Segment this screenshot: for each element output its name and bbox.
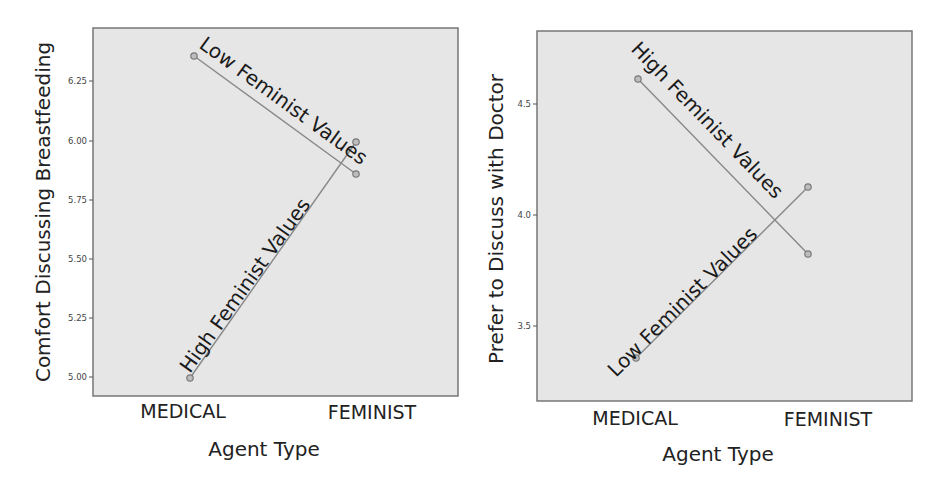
data-marker	[805, 251, 811, 257]
x-category-label: FEMINIST	[328, 401, 417, 423]
chart-svg-right: 3.5 4.0 4.5 High Feminist Values Low Fem…	[470, 0, 939, 485]
y-tick-label: 4.5	[517, 99, 531, 109]
y-tick-label: 6.00	[68, 136, 87, 146]
data-marker	[805, 184, 811, 190]
data-marker	[635, 76, 641, 82]
x-category-label: FEMINIST	[784, 408, 873, 430]
y-ticks: 3.5 4.0 4.5	[517, 99, 537, 331]
x-category-label: MEDICAL	[140, 400, 226, 422]
plot-area	[537, 31, 912, 401]
chart-svg-left: 5.00 5.25 5.50 5.75 6.00 6.25 Low Femini…	[0, 0, 470, 485]
x-axis-title: Agent Type	[662, 442, 774, 466]
y-tick-label: 5.00	[68, 372, 87, 382]
y-tick-label: 5.75	[68, 195, 87, 205]
data-marker	[191, 53, 197, 59]
y-axis-title: Comfort Discussing Breastfeeding	[31, 42, 55, 382]
x-axis-title: Agent Type	[208, 437, 320, 461]
y-tick-label: 4.0	[517, 210, 531, 220]
chart-prefer-doctor: 3.5 4.0 4.5 High Feminist Values Low Fem…	[470, 0, 939, 485]
y-tick-label: 5.25	[68, 313, 87, 323]
data-marker	[353, 171, 359, 177]
y-tick-label: 3.5	[517, 321, 531, 331]
y-tick-label: 5.50	[68, 254, 87, 264]
y-ticks: 5.00 5.25 5.50 5.75 6.00 6.25	[68, 76, 93, 382]
chart-comfort-breastfeeding: 5.00 5.25 5.50 5.75 6.00 6.25 Low Femini…	[0, 0, 470, 485]
y-tick-label: 6.25	[68, 76, 87, 86]
y-axis-title: Prefer to Discuss with Doctor	[484, 73, 508, 364]
x-category-label: MEDICAL	[592, 407, 678, 429]
